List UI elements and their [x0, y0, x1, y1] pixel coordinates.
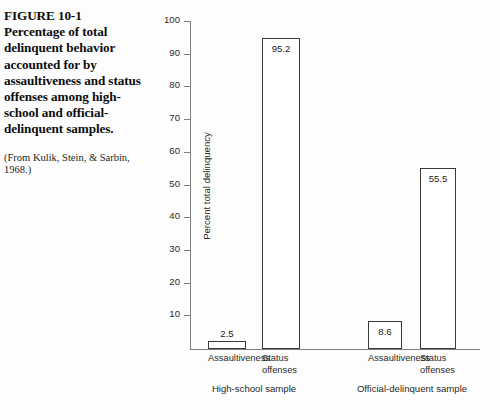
bar-1: 2.5Assaultiveness [208, 341, 246, 349]
x-axis-line [190, 349, 480, 350]
bar-value-label-4: 55.5 [421, 173, 455, 184]
figure-number: FIGURE 10-1 [4, 8, 154, 24]
y-tick-label-90: 90 [169, 47, 180, 58]
bar-category-label-1: Assaultiveness [208, 353, 270, 365]
y-tick-label-100: 100 [164, 14, 180, 25]
figure-caption-text: FIGURE 10-1 Percentage of total delinque… [4, 8, 154, 138]
y-tick-label-50: 50 [169, 178, 180, 189]
y-tick-label-20: 20 [169, 276, 180, 287]
y-tick-40: 40 [184, 217, 190, 218]
y-tick-20: 20 [184, 283, 190, 284]
bar-value-label-1: 2.5 [209, 328, 245, 339]
y-tick-30: 30 [184, 250, 190, 251]
y-tick-label-30: 30 [169, 243, 180, 254]
bar-category-label-2: Status offenses [262, 353, 297, 376]
y-tick-10: 10 [184, 315, 190, 316]
bar-chart: 102030405060708090100 Percent total deli… [150, 0, 500, 420]
bar-3: 8.6Assaultiveness [368, 321, 402, 349]
figure-caption-block: FIGURE 10-1 Percentage of total delinque… [4, 8, 154, 176]
bar-2: 95.2Status offenses [262, 38, 300, 349]
figure-caption-body: Percentage of total delinquent behavior … [4, 24, 141, 136]
y-axis-title: Percent total delinquency [201, 132, 212, 240]
group-label-1: High-school sample [212, 383, 296, 394]
plot-area: 102030405060708090100 Percent total deli… [190, 22, 480, 349]
bar-category-label-4: Status offenses [420, 353, 455, 376]
y-tick-50: 50 [184, 185, 190, 186]
figure-source-citation: (From Kulik, Stein, & Sarbin, 1968.) [4, 152, 154, 176]
y-tick-label-40: 40 [169, 210, 180, 221]
y-tick-label-70: 70 [169, 112, 180, 123]
y-tick-label-60: 60 [169, 145, 180, 156]
bar-4: 55.5Status offenses [420, 168, 456, 349]
y-tick-100: 100 [184, 21, 190, 22]
y-axis-line [190, 21, 191, 350]
group-label-2: Official-delinquent sample [357, 383, 467, 394]
y-tick-70: 70 [184, 119, 190, 120]
bar-value-label-3: 8.6 [369, 326, 401, 337]
y-tick-label-10: 10 [169, 308, 180, 319]
y-tick-90: 90 [184, 54, 190, 55]
y-tick-60: 60 [184, 152, 190, 153]
y-tick-80: 80 [184, 86, 190, 87]
bar-value-label-2: 95.2 [263, 43, 299, 54]
y-tick-label-80: 80 [169, 79, 180, 90]
